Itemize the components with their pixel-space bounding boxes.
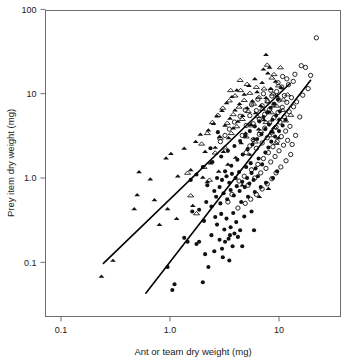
data-point — [203, 252, 207, 256]
data-point — [215, 223, 219, 227]
data-point — [222, 227, 226, 231]
data-point — [218, 185, 222, 189]
data-point — [227, 237, 231, 241]
y-axis-title: Prey item dry weight (mg) — [5, 109, 16, 217]
data-point — [214, 195, 218, 199]
y-tick-label: 0.1 — [24, 258, 37, 268]
data-point — [229, 225, 233, 229]
data-point — [249, 161, 253, 165]
data-point — [224, 217, 228, 221]
data-point — [208, 146, 212, 150]
chart-figure: 0.11.0100.11.010100 Ant or team dry weig… — [0, 0, 349, 364]
data-point — [206, 265, 210, 269]
x-axis-title: Ant or team dry weight (mg) — [134, 346, 251, 357]
data-point — [182, 236, 186, 240]
data-point — [240, 244, 244, 248]
data-point — [230, 172, 234, 176]
data-point — [277, 129, 281, 133]
data-point — [190, 210, 194, 214]
x-tick-label: 0.1 — [55, 325, 68, 335]
data-point — [246, 195, 250, 199]
data-point — [228, 233, 232, 237]
data-point — [238, 139, 242, 143]
data-point — [232, 231, 236, 235]
data-point — [212, 189, 216, 193]
data-point — [170, 288, 174, 292]
data-point — [215, 176, 219, 180]
data-point — [197, 208, 201, 212]
data-point — [273, 135, 277, 139]
data-point — [257, 157, 261, 161]
data-point — [219, 154, 223, 158]
data-point — [223, 240, 227, 244]
data-point — [172, 282, 176, 286]
data-point — [224, 174, 228, 178]
data-point — [221, 255, 225, 259]
y-tick-label: 100 — [21, 5, 36, 15]
data-point — [232, 144, 236, 148]
data-point — [220, 178, 224, 182]
plot-background — [0, 0, 349, 364]
data-point — [223, 169, 227, 173]
data-point — [252, 228, 256, 232]
data-point — [197, 240, 201, 244]
data-point — [231, 244, 235, 248]
data-point — [212, 249, 216, 253]
y-tick-label: 10 — [26, 89, 36, 99]
data-point — [229, 188, 233, 192]
data-point — [227, 258, 231, 262]
data-point — [218, 201, 222, 205]
data-point — [218, 238, 222, 242]
data-point — [235, 158, 239, 162]
data-point — [209, 233, 213, 237]
data-point — [216, 130, 220, 134]
y-tick-label: 1.0 — [24, 173, 37, 183]
data-point — [269, 140, 273, 144]
data-point — [231, 211, 235, 215]
data-point — [205, 183, 209, 187]
data-point — [250, 210, 254, 214]
data-point — [235, 184, 239, 188]
x-tick-label: 1.0 — [164, 325, 177, 335]
data-point — [238, 189, 242, 193]
x-tick-label: 10 — [274, 325, 284, 335]
data-point — [234, 220, 238, 224]
data-point — [248, 129, 252, 133]
data-point — [254, 166, 258, 170]
data-point — [229, 164, 233, 168]
data-point — [204, 200, 208, 204]
data-point — [238, 228, 242, 232]
data-point — [226, 149, 230, 153]
data-point — [220, 247, 224, 251]
data-point — [213, 215, 217, 219]
data-point — [201, 280, 205, 284]
data-point — [260, 162, 264, 166]
data-point — [242, 214, 246, 218]
data-point — [219, 212, 223, 216]
data-point — [236, 235, 240, 239]
data-point — [266, 145, 270, 149]
scatter-plot: 0.11.0100.11.010100 Ant or team dry weig… — [0, 0, 349, 364]
